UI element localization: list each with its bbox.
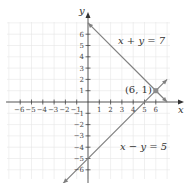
y-tick-label: −6 <box>74 166 85 174</box>
x-tick-label: −6 <box>14 106 25 114</box>
y-tick-label: 2 <box>80 76 84 84</box>
coordinate-plane: −6−5−4−3−2−1123456−6−5−4−3−2−1123456xyx … <box>0 0 187 183</box>
y-tick-label: 1 <box>80 87 84 95</box>
x-tick-label: −4 <box>37 106 48 114</box>
y-axis-label: y <box>78 5 85 16</box>
label-x-minus-y-eq-5: x − y = 5 <box>120 141 167 152</box>
y-axis-arrow-icon <box>86 12 91 18</box>
x-tick-label: 2 <box>108 106 112 114</box>
x-tick-label: 3 <box>120 106 124 114</box>
x-tick-label: 6 <box>154 106 159 114</box>
label-x-plus-y-eq-7: x + y = 7 <box>118 35 166 46</box>
x-tick-label: −2 <box>59 106 69 114</box>
x-tick-label: 5 <box>142 106 146 114</box>
x-tick-label: −5 <box>25 106 35 114</box>
intersection-label: (6, 1) <box>125 84 152 95</box>
x-tick-label: −3 <box>48 106 58 114</box>
y-tick-label: −2 <box>74 121 84 129</box>
y-tick-label: 3 <box>80 65 84 73</box>
y-tick-label: −1 <box>74 110 84 118</box>
y-tick-label: 5 <box>80 42 84 50</box>
x-axis-label: x <box>178 104 184 115</box>
y-tick-label: −4 <box>74 144 85 152</box>
y-tick-label: −3 <box>74 132 84 140</box>
x-tick-label: 4 <box>131 106 136 114</box>
intersection-point <box>153 88 158 93</box>
y-tick-label: −5 <box>74 155 84 163</box>
y-tick-label: 6 <box>80 31 85 39</box>
x-tick-label: 1 <box>97 106 101 114</box>
y-tick-label: 4 <box>80 53 85 61</box>
